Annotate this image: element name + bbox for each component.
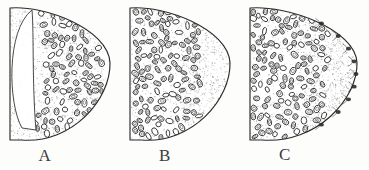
panel-label-b: B <box>153 146 177 166</box>
figure-root: ABC <box>0 0 369 170</box>
panel-c <box>244 0 365 170</box>
panel-drawing-a <box>4 0 118 150</box>
panel-drawing-c <box>244 0 365 150</box>
panel-b <box>124 0 238 170</box>
panel-label-c: C <box>273 145 297 165</box>
panel-a <box>4 0 118 170</box>
panel-label-a: A <box>33 146 57 166</box>
panel-drawing-b <box>124 0 238 150</box>
